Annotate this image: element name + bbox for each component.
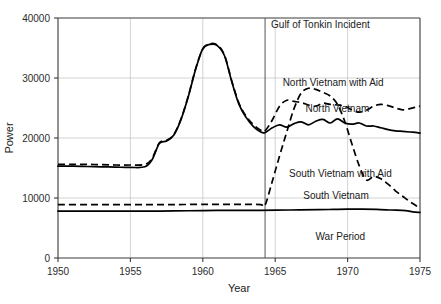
gulf-of-tonkin-annotation-label: Gulf of Tonkin Incident (271, 19, 370, 30)
war-period-annotation-label: War Period (316, 231, 366, 242)
x-axis-tick-label: 1955 (119, 266, 142, 277)
y-axis-title: Power (3, 122, 15, 154)
x-axis-tick-label: 1975 (409, 266, 432, 277)
y-axis-tick-label: 40000 (22, 13, 50, 24)
series-label-south-vietnam-with-aid: South Vietnam with Aid (289, 168, 392, 179)
power-vs-year-line-chart: 010000200003000040000 195019551960196519… (0, 0, 441, 304)
x-axis-tick-label: 1965 (264, 266, 287, 277)
x-axis-tick-label: 1970 (336, 266, 359, 277)
series-label-north-vietnam-with-aid: North Vietnam with Aid (283, 77, 384, 88)
series-label-south-vietnam: South Vietnam (303, 190, 368, 201)
y-axis-tick-label: 30000 (22, 73, 50, 84)
y-axis-tick-label: 10000 (22, 193, 50, 204)
y-axis-tick-label: 0 (44, 253, 50, 264)
chart-canvas: 010000200003000040000 195019551960196519… (0, 0, 441, 304)
y-axis-tick-label: 20000 (22, 133, 50, 144)
series-label-north-vietnam: North Vietnam (306, 103, 370, 114)
x-axis-tick-label: 1960 (192, 266, 215, 277)
x-axis-tick-label: 1950 (47, 266, 70, 277)
x-axis-title: Year (228, 282, 251, 294)
